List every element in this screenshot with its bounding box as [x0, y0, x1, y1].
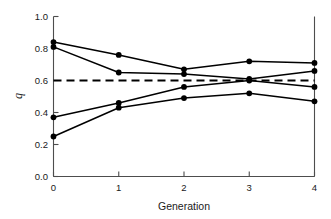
data-point-line-1-x4 [312, 60, 318, 66]
data-markers-layer [51, 39, 318, 139]
data-point-line-4-x1 [116, 105, 122, 111]
data-point-line-1-x3 [246, 58, 252, 64]
x-tick-label-3: 3 [247, 182, 252, 193]
data-point-line-3-x4 [312, 84, 318, 90]
y-tick-label-2: 0.4 [35, 107, 48, 118]
y-axis-title: q [11, 93, 25, 99]
data-point-line-4-x3 [246, 90, 252, 96]
data-point-line-3-x3 [246, 78, 252, 84]
data-point-line-2-x0 [51, 44, 57, 50]
data-point-line-2-x4 [312, 68, 318, 74]
data-point-line-4-x4 [312, 98, 318, 104]
data-point-line-2-x1 [116, 70, 122, 76]
data-point-line-4-x0 [51, 134, 57, 140]
x-axis-title: Generation [158, 200, 210, 212]
data-point-line-3-x2 [181, 84, 187, 90]
y-tick-label-0: 0.0 [35, 171, 48, 182]
y-tick-label-4: 0.8 [35, 43, 48, 54]
chart-figure: 1.0 0.8 0.6 0.4 0.2 0.0 0 1 2 3 4 Genera… [0, 0, 331, 219]
data-point-line-4-x2 [181, 95, 187, 101]
line-chart: 1.0 0.8 0.6 0.4 0.2 0.0 0 1 2 3 4 Genera… [0, 0, 331, 219]
y-tick-label-3: 0.6 [35, 75, 48, 86]
x-tick-label-1: 1 [116, 182, 121, 193]
x-tick-label-2: 2 [181, 182, 186, 193]
y-tick-label-5: 1.0 [35, 11, 48, 22]
y-tick-label-1: 0.2 [35, 139, 48, 150]
x-axis-ticks [54, 172, 315, 177]
series-line-line-1 [54, 42, 315, 69]
x-tick-label-0: 0 [51, 182, 56, 193]
data-point-line-2-x2 [181, 71, 187, 77]
y-axis-tick-labels: 1.0 0.8 0.6 0.4 0.2 0.0 [35, 11, 48, 182]
x-axis-tick-labels: 0 1 2 3 4 [51, 182, 317, 193]
data-point-line-3-x0 [51, 114, 57, 120]
data-point-line-1-x1 [116, 52, 122, 58]
x-tick-label-4: 4 [312, 182, 317, 193]
